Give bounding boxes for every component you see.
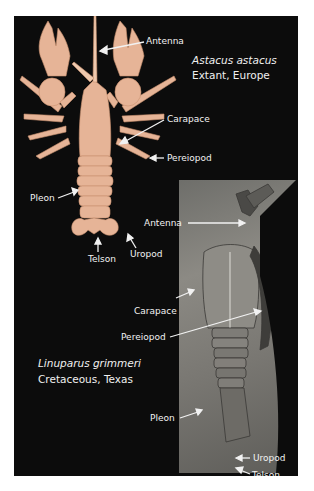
species-name-fossil: Linuparus grimmeri bbox=[38, 357, 141, 370]
label-pleon-fossil: Pleon bbox=[150, 413, 175, 423]
figure-panel: Astacus astacus Extant, Europe Linuparus… bbox=[14, 16, 298, 476]
specimen-illustrations bbox=[14, 16, 298, 476]
label-pereiopod-fossil: Pereiopod bbox=[121, 332, 166, 342]
label-carapace-fossil: Carapace bbox=[134, 306, 177, 316]
label-pleon-extant: Pleon bbox=[30, 193, 55, 203]
label-carapace-extant: Carapace bbox=[167, 114, 210, 124]
label-pereiopod-extant: Pereiopod bbox=[167, 153, 212, 163]
label-telson-extant: Telson bbox=[88, 254, 116, 264]
lobster-fossil bbox=[203, 180, 296, 473]
species-status-extant: Extant, Europe bbox=[192, 69, 270, 82]
label-antenna-fossil: Antenna bbox=[144, 218, 182, 228]
species-name-extant: Astacus astacus bbox=[192, 54, 277, 67]
label-uropod-fossil: Uropod bbox=[253, 453, 286, 463]
label-antenna-extant: Antenna bbox=[146, 36, 184, 46]
label-telson-fossil: Telson bbox=[252, 470, 280, 476]
label-uropod-extant: Uropod bbox=[130, 249, 163, 259]
species-status-fossil: Cretaceous, Texas bbox=[38, 373, 133, 386]
